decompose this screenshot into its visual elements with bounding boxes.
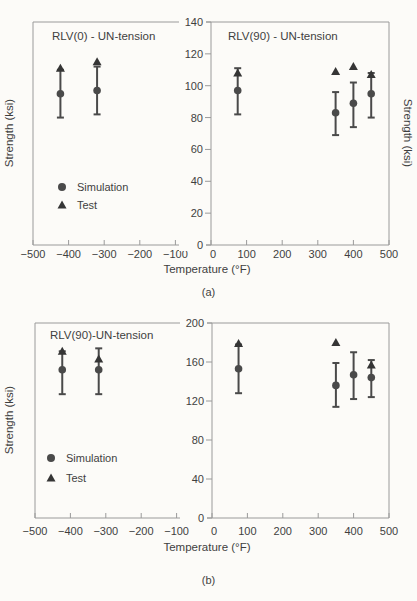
y-axis: 04080120160200Strength (ksi) (3, 317, 212, 524)
test-point (93, 57, 102, 65)
x-tick-label: −400 (58, 525, 83, 537)
legend-circle-icon (47, 454, 55, 462)
y-tick-label: 0 (198, 512, 204, 524)
x-tick-label: 100 (238, 525, 256, 537)
y-axis-label-left: Strength (ksi) (3, 99, 15, 168)
y-axis-label-right: Strength (ksi) (402, 99, 414, 168)
legend: SimulationTest (58, 181, 129, 211)
test-point (56, 64, 65, 72)
legend-label: Test (66, 472, 86, 484)
test-point (234, 339, 243, 347)
x-tick-label: 500 (380, 248, 398, 260)
test-point (367, 70, 376, 78)
y-tick-label: 120 (186, 395, 204, 407)
x-tick-label: 400 (344, 525, 362, 537)
plot-title: RLV(90)-UN-tension (50, 329, 153, 341)
simulation-point (95, 366, 103, 374)
x-tick-label: 300 (309, 248, 327, 260)
y-tick-label: 160 (186, 356, 204, 368)
test-point (349, 62, 358, 70)
chart-panel-b: −500−400−300−200−1000100200300400500Temp… (0, 300, 417, 601)
y-axis: 020406080100120140Strength (ksi)Strength… (3, 16, 414, 251)
simulation-point (350, 99, 358, 107)
simulation-point (234, 87, 242, 95)
x-tick-label: −300 (93, 525, 118, 537)
x-tick-label: 200 (274, 525, 292, 537)
simulation-point (57, 90, 65, 98)
chart-panel-a: −500−400−300−200−1000100200300400500Temp… (0, 0, 417, 300)
x-tick-label: −200 (127, 248, 152, 260)
test-point (367, 360, 376, 368)
legend-triangle-icon (47, 474, 56, 482)
simulation-point (332, 382, 340, 390)
x-tick-label: 100 (237, 248, 255, 260)
test-point (331, 338, 340, 346)
y-tick-label: 40 (192, 473, 204, 485)
y-tick-label: 20 (191, 207, 203, 219)
simulation-point (368, 374, 376, 382)
simulation-point (367, 90, 375, 98)
y-tick-label: 140 (185, 16, 203, 28)
x-axis: −500−400−300−200−1000100200300400500Temp… (23, 513, 399, 553)
series-test (56, 57, 376, 78)
y-tick-label: 0 (197, 239, 203, 251)
x-tick-label: 0 (210, 248, 216, 260)
x-tick-label: −500 (21, 248, 46, 260)
legend-circle-icon (58, 183, 66, 191)
x-axis-label: Temperature (°F) (163, 541, 250, 553)
test-point (233, 68, 242, 76)
x-tick-label: 200 (273, 248, 291, 260)
x-tick-label: 400 (344, 248, 362, 260)
y-tick-label: 40 (191, 175, 203, 187)
simulation-point (93, 87, 101, 95)
y-tick-label: 80 (191, 112, 203, 124)
plot-title: RLV(90) - UN-tension (228, 30, 338, 42)
caption-b: (b) (0, 574, 417, 586)
series-test (58, 338, 376, 368)
x-tick-label: −100 (164, 525, 189, 537)
x-axis-label: Temperature (°F) (163, 263, 250, 275)
legend-label: Test (77, 199, 97, 211)
series-simulation (57, 67, 375, 135)
test-point (331, 67, 340, 75)
x-tick-label: −300 (92, 248, 117, 260)
simulation-point (350, 371, 358, 379)
legend-label: Simulation (66, 452, 117, 464)
x-tick-label: −200 (129, 525, 154, 537)
simulation-point (58, 366, 66, 374)
legend-label: Simulation (77, 181, 128, 193)
x-tick-label: −400 (56, 248, 81, 260)
y-tick-label: 80 (192, 434, 204, 446)
x-tick-label: −500 (23, 525, 48, 537)
simulation-point (235, 365, 243, 373)
x-tick-label: 0 (211, 525, 217, 537)
legend: SimulationTest (47, 452, 118, 484)
y-tick-label: 120 (185, 48, 203, 60)
plot-frame (35, 323, 389, 518)
y-tick-label: 60 (191, 143, 203, 155)
series-simulation (58, 344, 375, 406)
y-tick-label: 100 (185, 80, 203, 92)
y-axis-label-left: Strength (ksi) (3, 386, 15, 455)
x-tick-label: 500 (380, 525, 398, 537)
caption-a: (a) (0, 286, 417, 298)
legend-triangle-icon (58, 201, 67, 209)
plot-title: RLV(0) - UN-tension (52, 30, 155, 42)
figure-page: −500−400−300−200−1000100200300400500Temp… (0, 0, 417, 601)
y-tick-label: 200 (186, 317, 204, 329)
test-point (94, 355, 103, 363)
simulation-point (332, 109, 340, 117)
x-tick-label: 300 (309, 525, 327, 537)
